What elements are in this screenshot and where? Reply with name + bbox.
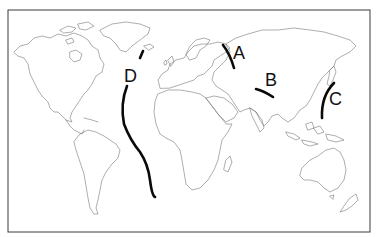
map-labels: A B C D: [124, 43, 342, 109]
label-d: D: [124, 66, 137, 86]
scandinavia-outline: [186, 38, 210, 60]
coastlines: [14, 22, 358, 214]
madagascar-outline: [224, 156, 232, 172]
line-b: [256, 89, 273, 97]
africa-outline: [154, 90, 232, 190]
north-america-outline: [14, 33, 104, 122]
europe-outline: [158, 42, 230, 88]
tasmania-outline: [330, 195, 334, 199]
new-zealand-outline: [340, 194, 358, 212]
line-d: [123, 86, 155, 197]
central-america-outline: [66, 118, 98, 134]
iceland-outline: [144, 44, 154, 50]
world-map: A B C D: [0, 0, 376, 237]
indonesia-outline: [286, 122, 344, 146]
label-b: B: [265, 70, 277, 90]
hudson-bay-outline: [70, 50, 82, 62]
australia-outline: [300, 148, 346, 192]
greenland-outline: [100, 22, 150, 52]
arctic-islands-outline: [60, 22, 94, 44]
british-isles-outline: [164, 56, 174, 66]
india-outline: [250, 108, 264, 132]
line-d-upper: [140, 51, 143, 58]
label-c: C: [329, 89, 342, 109]
south-america-outline: [74, 130, 120, 214]
label-a: A: [233, 43, 245, 63]
arabia-outline: [206, 96, 238, 122]
map-border: [8, 10, 370, 232]
